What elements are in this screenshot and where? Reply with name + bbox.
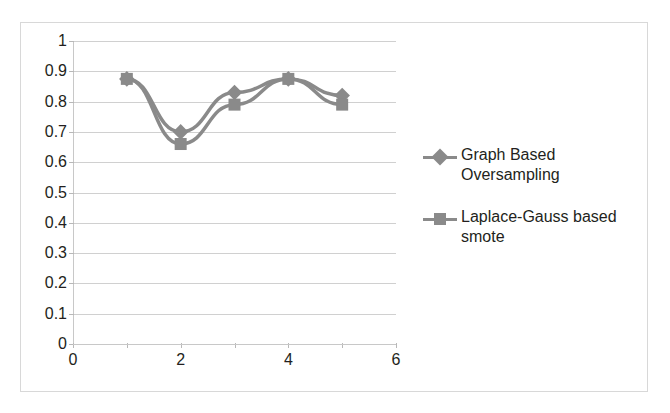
legend-label: Laplace-Gauss based smote [461,207,638,247]
y-axis-tick-label: 0 [23,336,67,352]
square-marker-icon [336,99,348,111]
legend-label: Graph Based Oversampling [461,145,638,185]
y-axis-tick-label: 0.6 [23,154,67,170]
diamond-marker-icon [173,124,189,140]
x-axis-tick-label: 2 [161,352,201,368]
chart-legend: Graph Based OversamplingLaplace-Gauss ba… [423,145,638,269]
legend-key [423,209,457,229]
y-axis-tick-label: 0.1 [23,306,67,322]
chart-frame: 00.10.20.30.40.50.60.70.80.91 0246 Graph… [20,22,648,392]
x-axis-tick [396,343,397,348]
square-marker-icon [175,138,187,150]
diamond-marker-icon [227,85,243,101]
y-axis-tick-label: 1 [23,33,67,49]
square-marker-icon [282,73,294,85]
diamond-marker-icon [432,149,449,166]
series-plot [73,41,396,344]
y-axis-tick-label: 0.4 [23,215,67,231]
y-axis-tick-label: 0.5 [23,185,67,201]
x-axis-tick-label: 4 [268,352,308,368]
y-axis-labels: 00.10.20.30.40.50.60.70.80.91 [21,41,67,344]
x-axis-labels: 0246 [73,344,396,374]
legend-key [423,147,457,167]
x-axis-tick-label: 0 [53,352,93,368]
y-axis-tick-label: 0.2 [23,275,67,291]
y-axis-tick-label: 0.8 [23,94,67,110]
y-axis-tick-label: 0.9 [23,63,67,79]
square-marker-icon [434,213,446,225]
square-marker-icon [121,73,133,85]
legend-entry: Laplace-Gauss based smote [423,207,638,247]
plot-area [73,41,396,344]
x-axis-tick-label: 6 [376,352,416,368]
square-marker-icon [229,99,241,111]
y-axis-tick-label: 0.3 [23,245,67,261]
y-axis-tick-label: 0.7 [23,124,67,140]
legend-entry: Graph Based Oversampling [423,145,638,185]
